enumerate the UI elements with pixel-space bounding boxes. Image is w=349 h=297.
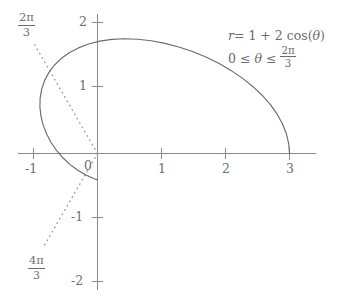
bound-fraction-2pi-3: 2π 3 — [280, 45, 295, 69]
fraction-4pi-3: 4π 3 — [28, 255, 45, 281]
polar-plot-figure: -1 0 1 2 3 2 1 -1 -2 2π 3 4π 3 r= 1 + 2 … — [0, 0, 349, 297]
ray-label-4pi-over-3: 4π 3 — [28, 255, 45, 281]
equation-close-paren: ) — [320, 28, 325, 43]
y-tick-label-neg1: -1 — [71, 211, 83, 224]
equation-annotation: r= 1 + 2 cos(θ) 0 ≤ θ ≤ 2π 3 — [228, 28, 325, 68]
fraction-denominator: 3 — [18, 26, 35, 39]
y-tick-label-1: 1 — [79, 80, 87, 93]
ray-2pi-over-3 — [33, 41, 98, 154]
fraction-numerator: 2π — [18, 12, 35, 26]
equation-rhs: = 1 + 2 cos( — [234, 28, 313, 43]
x-tick-label-1: 1 — [158, 163, 166, 176]
y-tick-label-2: 2 — [79, 16, 87, 29]
x-tick-label-3: 3 — [286, 163, 294, 176]
fraction-numerator: 2π — [280, 45, 295, 57]
x-tick-label-0: 0 — [84, 160, 92, 173]
equation-line-2: 0 ≤ θ ≤ 2π 3 — [228, 45, 325, 69]
y-tick-label-neg2: -2 — [71, 275, 83, 288]
bound-theta-symbol: θ — [254, 51, 262, 66]
x-tick-label-neg1: -1 — [25, 163, 37, 176]
fraction-denominator: 3 — [280, 57, 295, 68]
bound-relation: ≤ — [266, 51, 276, 66]
bound-lower: 0 ≤ — [228, 51, 250, 66]
equation-theta-symbol: θ — [313, 28, 321, 43]
fraction-2pi-3: 2π 3 — [18, 12, 35, 38]
fraction-denominator: 3 — [28, 269, 45, 282]
ray-label-2pi-over-3: 2π 3 — [18, 12, 35, 38]
fraction-numerator: 4π — [28, 255, 45, 269]
x-tick-label-2: 2 — [222, 163, 230, 176]
equation-line-1: r= 1 + 2 cos(θ) — [228, 28, 325, 45]
